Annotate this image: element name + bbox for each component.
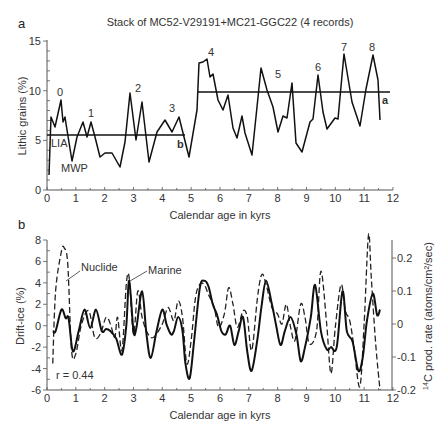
y-tick-label: 0 bbox=[35, 320, 41, 332]
x-tick-label: 7 bbox=[246, 192, 252, 204]
y-tick-label: 2 bbox=[35, 298, 41, 310]
right-y-tick-label: 0.2 bbox=[397, 252, 412, 264]
svg-text:14C prod. rate (atoms/cm²/sec): 14C prod. rate (atoms/cm²/sec) bbox=[422, 242, 434, 390]
panel-b-right-y-ticks: -0.2-0.100.10.2 bbox=[392, 252, 416, 396]
right-y-tick-label: 0.1 bbox=[397, 285, 412, 297]
panel-a-label: a bbox=[18, 16, 26, 31]
x-tick-label: 12 bbox=[387, 192, 399, 204]
right-y-tick-label: -0.1 bbox=[397, 351, 416, 363]
c14-label-text: C prod. rate (atoms/cm²/sec) bbox=[422, 242, 434, 382]
event-label-5: 5 bbox=[275, 68, 281, 80]
line-b-label: b bbox=[177, 138, 184, 150]
panel-a-x-label: Calendar age in kyrs bbox=[170, 209, 271, 221]
x-tick-label: 8 bbox=[275, 192, 281, 204]
nuclide-label: Nuclide bbox=[81, 261, 118, 273]
panel-a-y-label: Lithic grains (%) bbox=[16, 77, 28, 156]
marine-solid-curve bbox=[53, 281, 380, 379]
event-label-2: 2 bbox=[135, 82, 141, 94]
panel-b-y-label: Drift-ice (%) bbox=[14, 287, 26, 345]
x-tick-label: 5 bbox=[188, 392, 194, 404]
lithic-grains-curve bbox=[49, 54, 380, 175]
panel-a-axes bbox=[47, 40, 393, 190]
right-y-tick-label: 0 bbox=[397, 318, 403, 330]
y-tick-label: -6 bbox=[31, 384, 41, 396]
c14-superscript: 14 bbox=[422, 382, 429, 390]
y-tick-label: 6 bbox=[35, 255, 41, 267]
event-label-3: 3 bbox=[169, 102, 175, 114]
x-tick-label: 9 bbox=[303, 192, 309, 204]
x-tick-label: 11 bbox=[358, 192, 369, 204]
y-tick-label: 5 bbox=[35, 134, 41, 146]
mwp-label: MWP bbox=[61, 162, 88, 174]
y-tick-label: -4 bbox=[31, 363, 41, 375]
figure: a Stack of MC52-V29191+MC21-GGC22 (4 rec… bbox=[0, 0, 447, 430]
x-tick-label: 1 bbox=[73, 392, 79, 404]
x-tick-label: 9 bbox=[303, 392, 309, 404]
x-tick-label: 10 bbox=[329, 392, 341, 404]
event-label-8: 8 bbox=[369, 41, 375, 53]
panel-b-x-label: Calendar age in kyrs bbox=[170, 409, 271, 421]
lia-label: LIA bbox=[51, 137, 68, 149]
panel-b-label: b bbox=[18, 217, 25, 232]
x-tick-label: 4 bbox=[159, 192, 165, 204]
event-label-0: 0 bbox=[57, 86, 63, 98]
x-tick-label: 0 bbox=[44, 192, 50, 204]
x-tick-label: 2 bbox=[102, 392, 108, 404]
y-tick-label: -2 bbox=[31, 341, 41, 353]
marine-label: Marine bbox=[148, 264, 182, 276]
line-a-label: a bbox=[382, 94, 389, 106]
y-tick-label: 4 bbox=[35, 277, 41, 289]
y-tick-label: 15 bbox=[29, 35, 41, 47]
y-tick-label: 10 bbox=[29, 85, 41, 97]
right-y-tick-label: -0.2 bbox=[397, 384, 416, 396]
x-tick-label: 3 bbox=[130, 392, 136, 404]
event-label-4: 4 bbox=[208, 46, 214, 58]
x-tick-label: 3 bbox=[130, 192, 136, 204]
x-tick-label: 0 bbox=[44, 392, 50, 404]
x-tick-label: 12 bbox=[387, 392, 399, 404]
event-label-1: 1 bbox=[88, 107, 94, 119]
x-tick-label: 11 bbox=[358, 392, 369, 404]
event-label-6: 6 bbox=[315, 61, 321, 73]
x-tick-label: 2 bbox=[102, 192, 108, 204]
chart-title: Stack of MC52-V29191+MC21-GGC22 (4 recor… bbox=[107, 16, 354, 28]
panel-b-right-y-label: 14C prod. rate (atoms/cm²/sec) bbox=[422, 242, 434, 390]
x-tick-label: 1 bbox=[73, 192, 79, 204]
correlation-label: r = 0.44 bbox=[56, 369, 94, 381]
marine-leader-line bbox=[130, 271, 147, 281]
x-tick-label: 10 bbox=[329, 192, 341, 204]
y-tick-label: 0 bbox=[35, 184, 41, 196]
y-tick-label: 8 bbox=[35, 234, 41, 246]
event-label-7: 7 bbox=[341, 41, 347, 53]
x-tick-label: 4 bbox=[159, 392, 165, 404]
x-tick-label: 5 bbox=[188, 192, 194, 204]
x-tick-label: 6 bbox=[217, 192, 223, 204]
x-tick-label: 6 bbox=[217, 392, 223, 404]
x-tick-label: 7 bbox=[246, 392, 252, 404]
x-tick-label: 8 bbox=[275, 392, 281, 404]
